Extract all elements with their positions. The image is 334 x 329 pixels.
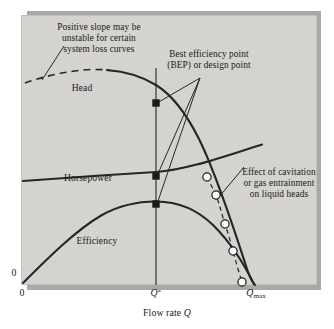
curve-label-efficiency: Efficiency — [66, 235, 128, 246]
cavitation-marker-5 — [238, 278, 246, 286]
cavitation-marker-1 — [203, 173, 211, 181]
bep-marker-head — [152, 99, 159, 106]
annotation-cavitation: Effect of cavitation or gas entrainment … — [229, 167, 329, 200]
cavitation-marker-3 — [221, 220, 229, 228]
q-star-asterisk: * — [158, 288, 162, 296]
annotation-bep: Best efficiency point (BEP) or design po… — [151, 49, 267, 71]
curve-label-head: Head — [62, 82, 102, 93]
y-axis-origin-label: 0 — [8, 267, 20, 279]
x-axis-title-text: Flow rate — [143, 307, 184, 318]
x-axis-origin-label: 0 — [16, 287, 28, 299]
q-star-symbol: Q — [151, 287, 158, 298]
x-axis-tick-q-max: Qmax — [236, 287, 276, 300]
bep-marker-efficiency — [152, 200, 159, 207]
x-axis-tick-q-star: Q* — [141, 287, 171, 299]
pump-performance-figure: Positive slope may be unstable for certa… — [0, 0, 334, 329]
cavitation-marker-2 — [212, 191, 220, 199]
bep-marker-horsepower — [152, 172, 159, 179]
q-max-subscript: max — [253, 292, 265, 300]
curve-label-horsepower: Horsepower — [50, 172, 126, 183]
x-axis-title: Flow rate Q — [107, 307, 227, 319]
cavitation-marker-4 — [229, 247, 237, 255]
x-axis-title-symbol: Q — [184, 307, 191, 318]
annotation-positive-slope: Positive slope may be unstable for certa… — [34, 22, 164, 55]
